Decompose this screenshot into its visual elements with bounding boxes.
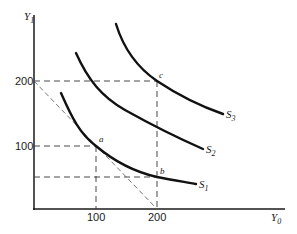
y-tick-200: 200 [15, 75, 33, 87]
point-label-a: a [99, 134, 104, 144]
y-tick-100: 100 [15, 140, 33, 152]
x-tick-100: 100 [87, 211, 105, 223]
point-label-b: b [160, 166, 165, 176]
curve-label-s2: S2 [206, 143, 216, 158]
diagram-canvas: Y1 Y0 200 100 100 200 S1 S2 S3 a b c [0, 0, 297, 234]
y-axis-label: Y1 [24, 10, 34, 25]
x-tick-200: 200 [148, 211, 166, 223]
curve-s3 [116, 24, 223, 114]
point-label-c: c [159, 70, 163, 80]
curve-label-s3: S3 [226, 108, 236, 123]
curve-s1 [61, 93, 196, 184]
curve-label-s1: S1 [199, 178, 209, 193]
x-axis-label: Y0 [271, 211, 281, 226]
